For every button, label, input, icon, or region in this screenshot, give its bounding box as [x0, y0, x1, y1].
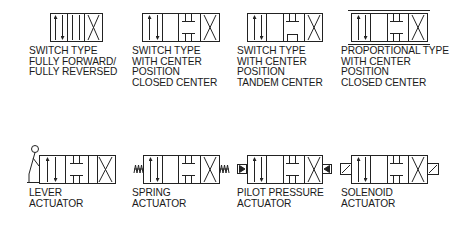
label-pilot-pressure-actuator: PILOT PRESSURE ACTUATOR	[237, 188, 324, 209]
label-solenoid-actuator: SOLENOID ACTUATOR	[341, 188, 395, 209]
label-switch-closed-center: SWITCH TYPE WITH CENTER POSITION CLOSED …	[132, 46, 217, 88]
label-lever-actuator: LEVER ACTUATOR	[29, 188, 83, 209]
valve-symbol-lever-actuator	[27, 146, 116, 184]
lever-knob-icon	[32, 146, 39, 153]
valve-symbol-switch-closed-center	[143, 14, 220, 42]
valve-symbol-spring-actuator	[134, 156, 229, 184]
valve-symbol-proportional-closed-center	[348, 11, 430, 45]
label-proportional-closed-center: PROPORTIONAL TYPE WITH CENTER POSITION C…	[341, 46, 449, 88]
valve-symbol-switch-full	[51, 14, 103, 42]
label-switch-tandem-center: SWITCH TYPE WITH CENTER POSITION TANDEM …	[237, 46, 323, 88]
label-switch-full: SWITCH TYPE FULLY FORWARD/ FULLY REVERSE…	[29, 46, 117, 78]
valve-symbol-pilot-pressure-actuator	[238, 156, 332, 184]
valve-symbol-switch-tandem-center	[248, 14, 323, 42]
label-spring-actuator: SPRING ACTUATOR	[132, 188, 186, 209]
valve-symbol-solenoid-actuator	[341, 156, 439, 184]
